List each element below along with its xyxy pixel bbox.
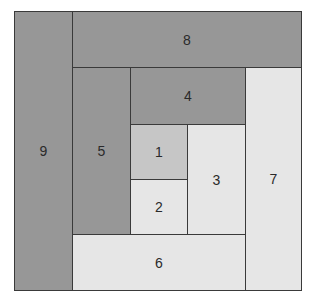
block-9: 9: [14, 11, 73, 291]
block-5: 5: [72, 67, 131, 235]
block-1-label: 1: [155, 144, 163, 160]
block-1: 1: [130, 124, 188, 180]
block-4: 4: [130, 67, 246, 125]
block-3: 3: [187, 124, 246, 235]
block-5-label: 5: [98, 143, 106, 159]
spiral-rectangle-diagram: 9 8 5 4 1 2 3 6 7: [0, 0, 315, 302]
block-7: 7: [245, 67, 302, 291]
block-8-label: 8: [183, 32, 191, 48]
block-2: 2: [130, 179, 188, 235]
block-7-label: 7: [270, 171, 278, 187]
block-6: 6: [72, 234, 246, 291]
block-8: 8: [72, 11, 302, 68]
block-9-label: 9: [40, 143, 48, 159]
block-6-label: 6: [155, 255, 163, 271]
block-3-label: 3: [213, 172, 221, 188]
block-4-label: 4: [184, 88, 192, 104]
block-2-label: 2: [155, 199, 163, 215]
